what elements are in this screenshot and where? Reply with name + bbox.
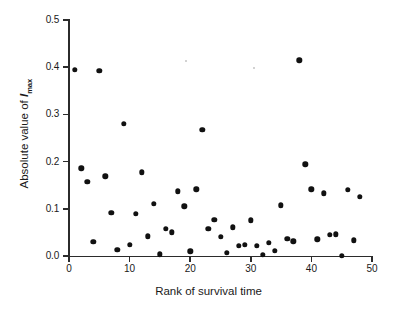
- data-point: [84, 179, 89, 184]
- x-tick-mark: [371, 256, 373, 262]
- x-axis-title: Rank of survival time: [0, 285, 417, 297]
- data-point: [351, 238, 356, 243]
- data-point: [115, 247, 120, 252]
- x-axis-line: [68, 256, 373, 258]
- data-point: [291, 239, 296, 244]
- data-point: [91, 239, 96, 244]
- data-point: [187, 249, 192, 254]
- data-point: [212, 217, 217, 222]
- y-tick-label: 0.4: [33, 62, 59, 72]
- data-point: [297, 57, 302, 62]
- x-tick-label: 40: [296, 264, 326, 274]
- data-point: [200, 127, 205, 132]
- data-point: [121, 121, 126, 126]
- data-point: [278, 203, 283, 208]
- y-tick-label: 0.2: [33, 157, 59, 167]
- data-point: [236, 243, 241, 248]
- data-point: [194, 187, 199, 192]
- data-point: [97, 68, 102, 73]
- data-point: [254, 243, 259, 248]
- data-point: [339, 253, 344, 258]
- data-point: [321, 191, 326, 196]
- x-tick-label: 0: [54, 264, 84, 274]
- data-point: [309, 187, 314, 192]
- data-point: [181, 204, 186, 209]
- data-point: [333, 232, 338, 237]
- y-tick-label: 0.0: [33, 251, 59, 261]
- data-point: [133, 211, 138, 216]
- data-point: [206, 226, 211, 231]
- data-point: [78, 166, 83, 171]
- y-axis-title: Absolute value of Imax: [18, 16, 33, 252]
- data-point: [127, 242, 132, 247]
- data-point: [272, 248, 277, 253]
- data-point: [266, 240, 271, 245]
- data-point: [72, 67, 77, 72]
- y-tick-label: 0.3: [33, 109, 59, 119]
- x-tick-mark: [311, 256, 313, 262]
- y-tick-mark: [63, 208, 69, 210]
- x-tick-mark: [250, 256, 252, 262]
- x-tick-label: 10: [115, 264, 145, 274]
- image-speck: [253, 67, 255, 69]
- data-point: [169, 230, 174, 235]
- data-point: [230, 225, 235, 230]
- data-point: [303, 162, 308, 167]
- y-tick-mark: [63, 66, 69, 68]
- data-point: [139, 170, 144, 175]
- data-point: [175, 189, 180, 194]
- data-point: [145, 233, 150, 238]
- x-tick-label: 20: [175, 264, 205, 274]
- x-tick-label: 30: [236, 264, 266, 274]
- y-axis-title-text: Absolute value of: [18, 97, 30, 188]
- data-point: [345, 187, 350, 192]
- x-tick-mark: [68, 256, 70, 262]
- y-tick-mark: [63, 19, 69, 21]
- image-speck: [185, 60, 187, 62]
- y-tick-mark: [63, 114, 69, 116]
- data-point: [327, 232, 332, 237]
- data-point: [242, 242, 247, 247]
- x-tick-mark: [189, 256, 191, 262]
- y-tick-label: 0.1: [33, 204, 59, 214]
- x-tick-mark: [129, 256, 131, 262]
- data-point: [218, 234, 223, 239]
- data-point: [315, 237, 320, 242]
- y-axis-line: [68, 19, 70, 257]
- data-point: [103, 174, 108, 179]
- data-point: [151, 201, 156, 206]
- data-point: [357, 194, 362, 199]
- data-point: [284, 236, 289, 241]
- y-axis-subscript: max: [25, 79, 34, 94]
- x-tick-label: 50: [357, 264, 387, 274]
- data-point: [109, 210, 114, 215]
- data-point: [163, 226, 168, 231]
- y-tick-label: 0.5: [33, 15, 59, 25]
- data-point: [248, 217, 253, 222]
- scatter-plot-figure: 0.00.10.20.30.40.5 01020304050 Rank of s…: [0, 0, 417, 309]
- y-tick-mark: [63, 161, 69, 163]
- y-axis-symbol: I: [18, 94, 30, 97]
